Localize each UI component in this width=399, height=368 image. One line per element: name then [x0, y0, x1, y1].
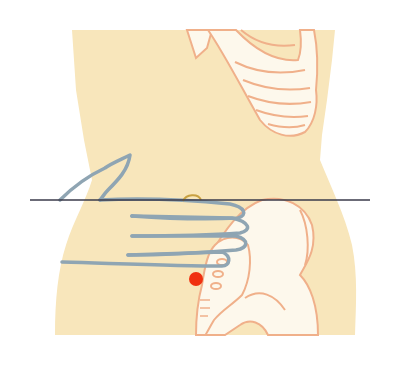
anatomy-diagram	[0, 0, 399, 368]
acupoint-marker	[189, 272, 203, 286]
